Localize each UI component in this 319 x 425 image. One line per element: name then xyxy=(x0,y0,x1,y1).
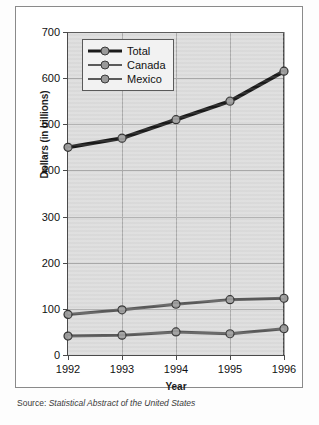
legend-marker-icon xyxy=(101,47,110,56)
legend-label: Canada xyxy=(127,59,166,71)
x-axis-title: Year xyxy=(68,381,284,392)
x-tick-mark xyxy=(68,355,69,360)
legend-label: Mexico xyxy=(127,73,162,85)
x-tick-label: 1992 xyxy=(56,363,80,375)
source-title: Statistical Abstract of the United State… xyxy=(49,398,196,408)
y-tick-label: 100 xyxy=(42,303,60,315)
chart-figure: Dollars (in billions) 010020030040050060… xyxy=(15,6,303,388)
data-point xyxy=(172,116,180,124)
y-tick-label: 300 xyxy=(42,211,60,223)
data-point xyxy=(64,143,72,151)
x-tick-label: 1993 xyxy=(110,363,134,375)
plot-area: 0100200300400500600700 TotalCanadaMexico… xyxy=(67,32,284,356)
data-point xyxy=(226,330,234,338)
data-point xyxy=(172,328,180,336)
data-point xyxy=(118,331,126,339)
legend-swatch xyxy=(88,59,122,71)
chart-legend: TotalCanadaMexico xyxy=(82,39,174,91)
y-tick-label: 500 xyxy=(42,118,60,130)
series-mexico xyxy=(64,325,288,340)
x-tick-label: 1995 xyxy=(218,363,242,375)
x-tick-mark xyxy=(176,355,177,360)
legend-swatch xyxy=(88,45,122,57)
y-tick-label: 400 xyxy=(42,164,60,176)
data-point xyxy=(118,134,126,142)
data-point xyxy=(118,306,126,314)
x-tick-label: 1994 xyxy=(164,363,188,375)
data-point xyxy=(280,294,288,302)
y-tick-label: 600 xyxy=(42,72,60,84)
x-axis: 19921993199419951996 Year xyxy=(68,355,284,395)
legend-marker-icon xyxy=(101,61,110,70)
x-tick-mark xyxy=(122,355,123,360)
y-tick-label: 700 xyxy=(42,26,60,38)
gridline-vertical xyxy=(284,32,285,355)
y-tick-label: 0 xyxy=(54,349,60,361)
legend-marker-icon xyxy=(101,75,110,84)
x-tick-mark xyxy=(284,355,285,360)
series-canada xyxy=(64,294,288,318)
data-point xyxy=(226,97,234,105)
source-prefix: Source: xyxy=(17,398,46,408)
data-point xyxy=(64,310,72,318)
legend-item-total: Total xyxy=(88,44,166,58)
data-point xyxy=(226,296,234,304)
data-point xyxy=(280,67,288,75)
legend-swatch xyxy=(88,73,122,85)
legend-item-mexico: Mexico xyxy=(88,72,166,86)
data-point xyxy=(172,300,180,308)
legend-item-canada: Canada xyxy=(88,58,166,72)
y-tick-label: 200 xyxy=(42,257,60,269)
source-note: Source: Statistical Abstract of the Unit… xyxy=(17,398,195,408)
x-tick-mark xyxy=(230,355,231,360)
data-point xyxy=(64,332,72,340)
legend-label: Total xyxy=(127,45,150,57)
data-point xyxy=(280,325,288,333)
x-tick-label: 1996 xyxy=(272,363,296,375)
